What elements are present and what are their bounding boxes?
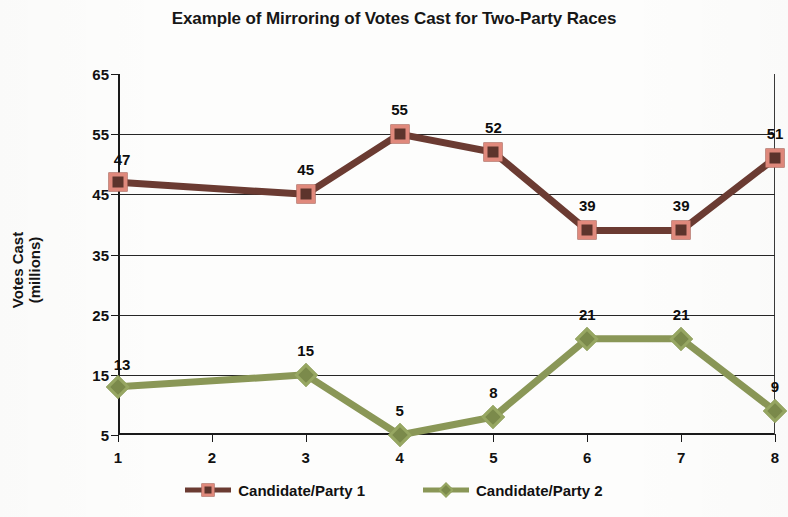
square-marker-icon (202, 484, 215, 497)
data-label: 51 (767, 125, 784, 142)
x-tick-label: 1 (114, 449, 122, 466)
data-label: 8 (489, 384, 497, 401)
data-label: 13 (114, 356, 131, 373)
x-tick-mark (212, 434, 213, 442)
data-label: 21 (579, 306, 596, 323)
data-label: 15 (297, 342, 314, 359)
data-label: 45 (297, 161, 314, 178)
y-tick-label: 65 (92, 66, 109, 83)
legend-item-candidate-party-1[interactable]: Candidate/Party 1 (185, 481, 365, 499)
chart-figure: Example of Mirroring of Votes Cast for T… (0, 0, 788, 517)
x-tick-mark (118, 434, 119, 442)
square-marker-icon (672, 221, 691, 240)
y-axis-title-line1: Votes Cast (9, 232, 26, 308)
x-tick-label: 2 (208, 449, 216, 466)
square-marker-icon (296, 185, 315, 204)
x-tick-label: 6 (583, 449, 591, 466)
x-tick-label: 7 (677, 449, 685, 466)
square-marker-icon (390, 125, 409, 144)
y-axis-title: Votes Cast (millions) (6, 190, 46, 350)
y-axis-title-line2: (millions) (26, 232, 43, 308)
y-tick-label: 45 (92, 186, 109, 203)
y-tick-label: 5 (101, 427, 109, 444)
series-line-1 (118, 134, 775, 230)
y-tick-label: 15 (92, 366, 109, 383)
x-tick-label: 5 (489, 449, 497, 466)
plot-area: 5152535455565 12345678 47455552393951131… (118, 74, 775, 435)
chart-title: Example of Mirroring of Votes Cast for T… (0, 9, 788, 29)
x-tick-mark (493, 434, 494, 442)
legend-swatch-series-1 (185, 481, 231, 499)
square-marker-icon (109, 173, 128, 192)
x-tick-mark (775, 434, 776, 442)
x-tick-label: 4 (395, 449, 403, 466)
data-label: 55 (391, 101, 408, 118)
legend-item-candidate-party-2[interactable]: Candidate/Party 2 (423, 481, 603, 499)
square-marker-icon (766, 149, 785, 168)
chart-legend: Candidate/Party 1 Candidate/Party 2 (0, 481, 788, 499)
data-label: 21 (673, 306, 690, 323)
data-label: 47 (114, 151, 131, 168)
y-tick-label: 25 (92, 306, 109, 323)
series-line-2 (118, 339, 775, 435)
legend-label-series-1: Candidate/Party 1 (238, 482, 365, 499)
legend-label-series-2: Candidate/Party 2 (476, 482, 603, 499)
x-tick-label: 3 (302, 449, 310, 466)
data-label: 39 (673, 197, 690, 214)
square-marker-icon (578, 221, 597, 240)
x-tick-mark (587, 434, 588, 442)
y-tick-label: 35 (92, 246, 109, 263)
data-label: 52 (485, 119, 502, 136)
data-label: 39 (579, 197, 596, 214)
y-tick-label: 55 (92, 126, 109, 143)
diamond-marker-icon (438, 482, 454, 498)
legend-swatch-series-2 (423, 481, 469, 499)
x-tick-mark (306, 434, 307, 442)
square-marker-icon (484, 143, 503, 162)
x-tick-label: 8 (771, 449, 779, 466)
data-label: 9 (771, 378, 779, 395)
series-lines (118, 74, 775, 435)
data-label: 5 (395, 402, 403, 419)
x-tick-mark (681, 434, 682, 442)
